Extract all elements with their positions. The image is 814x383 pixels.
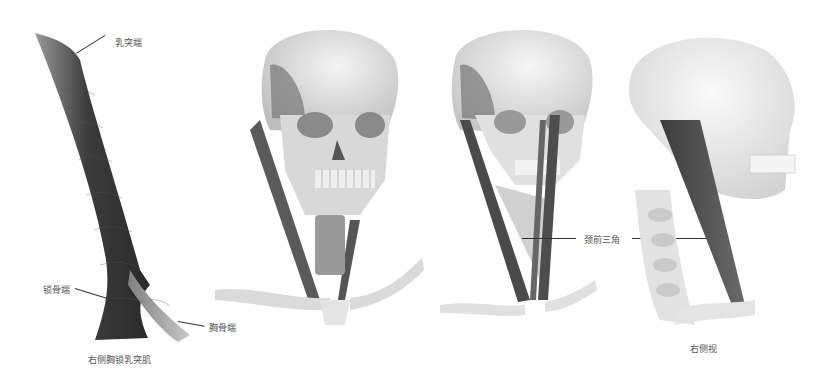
panel-muscle-isolated: 乳突端 锁骨端 右侧胸锁乳突肌 xyxy=(0,0,220,383)
skull-front-illustration xyxy=(210,0,425,383)
panel-right-side-view: 右侧视 xyxy=(615,0,814,383)
label-clavicular-end: 锁骨端 xyxy=(43,283,70,296)
panel-front-view-skull xyxy=(210,0,425,383)
caption-right-side-view: 右侧视 xyxy=(690,342,717,355)
side-view-illustration xyxy=(615,0,814,383)
leader-anterior-triangle-left xyxy=(522,238,576,239)
label-mastoid-end: 乳突端 xyxy=(115,36,142,49)
caption-right-scm: 右侧胸锁乳突肌 xyxy=(88,353,151,366)
anterior-triangle-illustration xyxy=(430,0,620,383)
panel-front-view-triangle xyxy=(430,0,620,383)
sternocleidomastoid-muscle-illustration xyxy=(0,0,220,383)
